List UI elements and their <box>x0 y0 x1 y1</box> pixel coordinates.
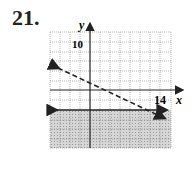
x-axis-label: x <box>175 93 182 107</box>
y-axis-label: y <box>77 18 85 32</box>
inequality-graph: y x 10 14 <box>0 0 194 173</box>
x-tick-label: 14 <box>154 93 166 107</box>
y-tick-label: 10 <box>72 38 84 50</box>
